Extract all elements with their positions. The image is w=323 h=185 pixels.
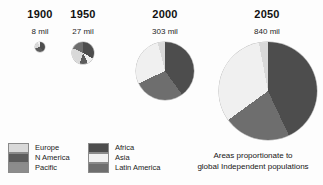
population-value-2000: 303 mil [125,27,205,36]
pie-chart-1950[interactable] [72,42,94,64]
figure-caption: Areas proportionate to global Independen… [183,150,323,172]
legend-item[interactable]: Latin America [88,163,160,173]
pie-wrap-1950 [43,42,123,102]
population-value-1950: 27 mil [43,27,123,36]
legend-label-pacific: Pacific [35,163,57,173]
caption-line-2: global Independent populations [183,161,323,172]
legend-swatch-europe [8,143,29,153]
legend-swatch-latin-america [88,163,109,173]
pie-chart-2000[interactable] [136,42,194,100]
legend-item[interactable]: Africa [88,143,160,153]
legend-label-africa: Africa [115,143,134,153]
legend-item[interactable]: Europe [8,143,70,153]
pie-wrap-2000 [125,42,205,104]
legend-swatch-asia [88,153,109,163]
column-2050: 2050 840 mil [227,8,307,36]
pie-chart-2050[interactable] [219,42,317,140]
legend-label-asia: Asia [115,153,130,163]
legend-item[interactable]: Asia [88,153,160,163]
caption-line-1: Areas proportionate to [183,150,323,161]
legend-label-n-america: N America [35,153,70,163]
population-value-2050: 840 mil [227,27,307,36]
legend-swatch-pacific [8,163,29,173]
year-label-2000: 2000 [125,8,205,20]
legend-item[interactable]: N America [8,153,70,163]
legend-item[interactable]: Pacific [8,163,70,173]
legend-label-europe: Europe [35,143,59,153]
legend-right: Africa Asia Latin America [88,143,160,173]
pie-wrap-2050 [218,42,318,142]
legend-left: Europe N America Pacific [8,143,70,173]
legend-label-latin-america: Latin America [115,163,160,173]
column-1950: 1950 27 mil [43,8,123,36]
legend-swatch-africa [88,143,109,153]
year-label-1950: 1950 [43,8,123,20]
year-label-2050: 2050 [227,8,307,20]
legend-swatch-n-america [8,153,29,163]
population-pie-figure: 1900 8 mil 1950 27 mil 2000 303 mil 2050… [0,0,323,185]
column-2000: 2000 303 mil [125,8,205,36]
